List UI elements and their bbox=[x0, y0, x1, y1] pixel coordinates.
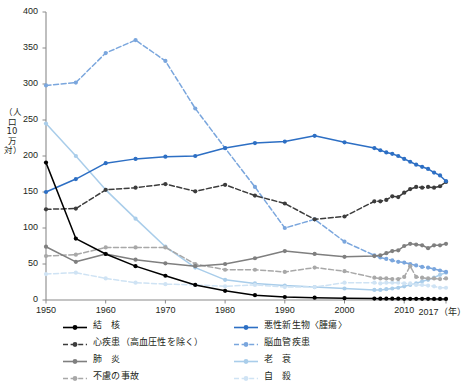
legend-item[interactable]: 心疾患（高血圧性を除く） bbox=[62, 333, 203, 350]
line-marker-icon bbox=[62, 336, 88, 347]
legend-item[interactable]: 肺 炎 bbox=[62, 350, 203, 367]
chart-container: （人口10万対） 050100150200250300350400 195019… bbox=[0, 0, 451, 310]
line-marker-icon bbox=[233, 353, 259, 364]
y-tick-label: 150 bbox=[10, 186, 38, 196]
line-chart-plot bbox=[0, 0, 451, 310]
axis-lines bbox=[46, 12, 446, 300]
legend-item[interactable]: 結 核 bbox=[62, 316, 203, 333]
line-marker-icon bbox=[233, 319, 259, 330]
legend-item[interactable]: 脳血管疾患 bbox=[233, 333, 347, 350]
legend-label: 脳血管疾患 bbox=[264, 335, 310, 348]
y-tick-label: 250 bbox=[10, 114, 38, 124]
series-3 bbox=[44, 245, 448, 281]
series-1 bbox=[44, 180, 448, 222]
legend-item[interactable]: 不慮の事故 bbox=[62, 367, 203, 384]
series-7 bbox=[44, 271, 448, 290]
line-marker-icon bbox=[233, 336, 259, 347]
series-4 bbox=[44, 134, 448, 194]
legend-label: 心疾患（高血圧性を除く） bbox=[93, 335, 203, 348]
series-6 bbox=[44, 122, 448, 293]
legend-label: 結 核 bbox=[93, 318, 121, 331]
legend-label: 肺 炎 bbox=[93, 352, 121, 365]
legend-label: 不慮の事故 bbox=[93, 369, 139, 382]
line-marker-icon bbox=[62, 370, 88, 381]
legend-label: 悪性新生物〈腫瘍〉 bbox=[264, 318, 347, 331]
legend-item[interactable]: 自 殺 bbox=[233, 367, 347, 384]
legend-item[interactable]: 老 衰 bbox=[233, 350, 347, 367]
y-tick-label: 50 bbox=[10, 258, 38, 268]
y-tick-label: 300 bbox=[10, 78, 38, 88]
y-tick-label: 400 bbox=[10, 6, 38, 16]
legend-label: 自 殺 bbox=[264, 369, 292, 382]
line-marker-icon bbox=[233, 370, 259, 381]
chart-legend: 結 核心疾患（高血圧性を除く）肺 炎不慮の事故 悪性新生物〈腫瘍〉脳血管疾患老 … bbox=[0, 312, 451, 388]
line-marker-icon bbox=[62, 353, 88, 364]
y-tick-label: 100 bbox=[10, 222, 38, 232]
line-marker-icon bbox=[62, 319, 88, 330]
y-tick-label: 0 bbox=[10, 294, 38, 304]
legend-label: 老 衰 bbox=[264, 352, 292, 365]
series-5 bbox=[44, 38, 448, 274]
legend-column-left: 結 核心疾患（高血圧性を除く）肺 炎不慮の事故 bbox=[62, 316, 203, 384]
y-tick-label: 350 bbox=[10, 42, 38, 52]
legend-item[interactable]: 悪性新生物〈腫瘍〉 bbox=[233, 316, 347, 333]
legend-column-right: 悪性新生物〈腫瘍〉脳血管疾患老 衰自 殺 bbox=[233, 316, 347, 384]
y-tick-label: 200 bbox=[10, 150, 38, 160]
